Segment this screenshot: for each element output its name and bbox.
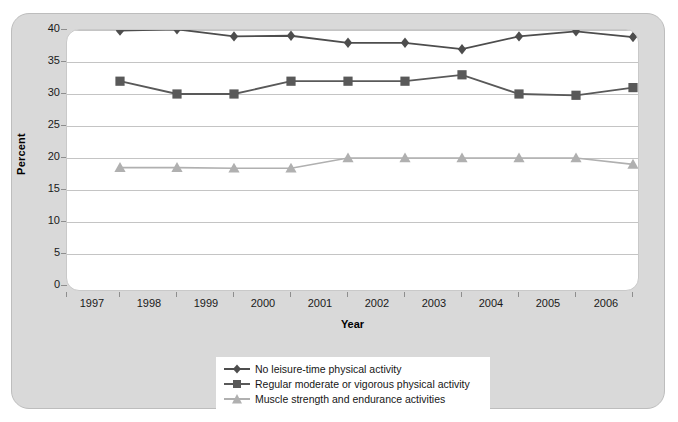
data-point-marker <box>173 29 181 35</box>
data-point-marker <box>115 77 124 86</box>
series-line <box>120 29 633 49</box>
triangle-marker-icon <box>222 392 252 406</box>
legend-label-1: Regular moderate or vigorous physical ac… <box>252 378 470 390</box>
x-tick-label-2004: 2004 <box>467 297 515 309</box>
data-point-marker <box>400 77 409 86</box>
y-axis-tick-labels: 40 35 30 25 20 15 10 5 0 <box>20 29 60 291</box>
x-tick-label-2000: 2000 <box>239 297 287 309</box>
x-axis-title: Year <box>66 318 639 330</box>
data-point-marker <box>116 29 124 36</box>
data-point-marker <box>629 32 637 42</box>
y-tick-label-5: 5 <box>26 247 60 258</box>
chart-figure: Percent 40 35 30 25 20 15 10 5 0 <box>0 0 678 422</box>
x-axis-tick-labels: 1997 1998 1999 2000 2001 2002 2003 2004 … <box>66 297 639 315</box>
x-tick-label-2006: 2006 <box>582 297 630 309</box>
legend-label-2: Muscle strength and endurance activities <box>252 393 445 405</box>
data-point-marker <box>458 44 466 54</box>
square-marker-icon <box>222 377 252 391</box>
series-line <box>120 158 633 168</box>
data-point-marker <box>628 83 637 92</box>
legend-item-0[interactable]: No leisure-time physical activity <box>222 361 484 376</box>
data-point-marker <box>230 31 238 41</box>
y-tick-label-20: 20 <box>26 151 60 162</box>
series-line <box>120 75 633 95</box>
data-point-marker <box>286 77 295 86</box>
legend-label-0: No leisure-time physical activity <box>252 363 401 375</box>
data-point-marker <box>571 91 580 100</box>
y-tick-label-10: 10 <box>26 215 60 226</box>
x-tick-label-1997: 1997 <box>68 297 116 309</box>
data-point-marker <box>401 38 409 48</box>
data-point-marker <box>515 31 523 41</box>
series-regular-activity <box>115 70 637 100</box>
legend-item-2[interactable]: Muscle strength and endurance activities <box>222 391 484 406</box>
data-point-marker <box>172 89 181 98</box>
legend-item-1[interactable]: Regular moderate or vigorous physical ac… <box>222 376 484 391</box>
series-no-leisure-activity <box>116 29 637 54</box>
x-tick-label-2005: 2005 <box>524 297 572 309</box>
diamond-marker-icon <box>222 362 252 376</box>
series-muscle-strength <box>114 152 638 172</box>
plot-area <box>66 29 639 291</box>
x-tick-label-1998: 1998 <box>125 297 173 309</box>
y-tick-label-15: 15 <box>26 183 60 194</box>
y-tick-label-0: 0 <box>26 279 60 290</box>
y-tick-label-25: 25 <box>26 119 60 130</box>
data-point-marker <box>344 38 352 48</box>
y-tick-label-35: 35 <box>26 55 60 66</box>
chart-legend: No leisure-time physical activity Regula… <box>216 357 490 411</box>
data-point-marker <box>572 29 580 36</box>
x-tick-label-1999: 1999 <box>182 297 230 309</box>
data-point-marker <box>229 89 238 98</box>
x-tick-label-2001: 2001 <box>296 297 344 309</box>
data-point-marker <box>343 77 352 86</box>
series-layer <box>67 30 639 291</box>
data-point-marker <box>457 70 466 79</box>
y-tick-label-30: 30 <box>26 87 60 98</box>
x-tick-label-2002: 2002 <box>353 297 401 309</box>
data-point-marker <box>287 31 295 41</box>
x-tick-label-2003: 2003 <box>410 297 458 309</box>
y-tick-label-40: 40 <box>26 23 60 34</box>
data-point-marker <box>514 89 523 98</box>
